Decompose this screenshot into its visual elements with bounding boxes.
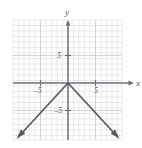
coordinate-plane-svg: –5 5 5 –5 y x (0, 0, 142, 148)
y-tick-label-negative-5: –5 (54, 106, 63, 115)
coordinate-plane-figure: –5 5 5 –5 y x (0, 0, 142, 148)
x-axis-label: x (135, 78, 140, 88)
y-axis-label: y (64, 7, 69, 17)
x-axis-arrow-icon (129, 81, 135, 86)
x-tick-label-positive-5: 5 (94, 86, 98, 95)
y-tick-label-positive-5: 5 (57, 51, 61, 60)
x-tick-label-negative-5: –5 (33, 86, 42, 95)
